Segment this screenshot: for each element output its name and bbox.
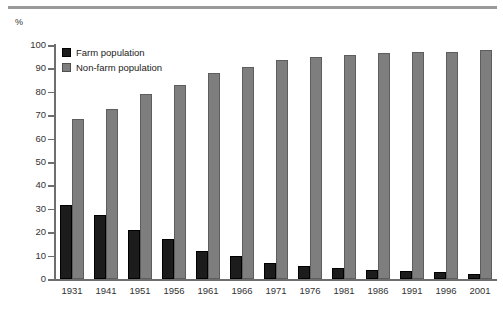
x-axis-tick-label: 1941 <box>89 286 123 302</box>
legend-item-farm: Farm population <box>62 46 162 59</box>
bar-nonfarm <box>378 53 390 279</box>
legend-label-nonfarm: Non-farm population <box>76 63 162 73</box>
bar-nonfarm <box>140 94 152 279</box>
bar-farm <box>264 263 276 279</box>
x-axis-tick-label: 1971 <box>259 286 293 302</box>
plot-area <box>55 45 497 279</box>
bar-nonfarm <box>344 55 356 279</box>
x-axis-tick-label: 1986 <box>361 286 395 302</box>
bar-nonfarm <box>446 52 458 279</box>
y-axis-tick-label: 20 <box>6 227 46 237</box>
bar-nonfarm <box>208 73 220 279</box>
x-axis-tick-label: 2001 <box>463 286 497 302</box>
y-axis-tick-label: 50 <box>6 157 46 167</box>
bar-farm <box>298 266 310 279</box>
bar-group <box>157 45 191 279</box>
bar-farm <box>60 205 72 279</box>
bar-farm <box>230 256 242 279</box>
bar-group <box>361 45 395 279</box>
bar-group <box>327 45 361 279</box>
x-axis-tick-labels: 1931194119511956196119661971197619811986… <box>55 286 497 302</box>
legend-label-farm: Farm population <box>76 48 145 58</box>
bar-farm <box>400 271 412 279</box>
bar-group <box>395 45 429 279</box>
bar-group <box>191 45 225 279</box>
bar-farm <box>162 239 174 279</box>
x-axis-tick-label: 1976 <box>293 286 327 302</box>
legend-swatch-farm-icon <box>62 48 71 57</box>
y-axis-tick-label: 10 <box>6 251 46 261</box>
bar-nonfarm <box>174 85 186 279</box>
x-axis-tick-label: 1951 <box>123 286 157 302</box>
bar-group <box>55 45 89 279</box>
x-axis-tick-label: 1931 <box>55 286 89 302</box>
y-axis-tick-label: 90 <box>6 63 46 73</box>
chart-page: % 1009080706050403020100 193119411951195… <box>0 0 503 318</box>
bar-group <box>429 45 463 279</box>
bar-farm <box>332 268 344 279</box>
bar-farm <box>128 230 140 279</box>
y-axis-tick-label: 30 <box>6 204 46 214</box>
y-axis-tick-labels: 1009080706050403020100 <box>0 0 46 318</box>
bar-group <box>123 45 157 279</box>
bar-groups <box>55 45 497 279</box>
top-divider-rule <box>8 6 497 9</box>
legend-swatch-nonfarm-icon <box>62 63 71 72</box>
bar-farm <box>434 272 446 279</box>
bar-group <box>225 45 259 279</box>
bar-nonfarm <box>106 109 118 279</box>
legend-item-nonfarm: Non-farm population <box>62 61 162 74</box>
x-axis-tick-label: 1981 <box>327 286 361 302</box>
y-axis-tick-label: 80 <box>6 87 46 97</box>
bar-nonfarm <box>310 57 322 279</box>
y-axis-tick-label: 70 <box>6 110 46 120</box>
bar-nonfarm <box>72 119 84 279</box>
x-axis-tick-label: 1991 <box>395 286 429 302</box>
y-axis-tick-label: 60 <box>6 134 46 144</box>
bar-farm <box>94 215 106 279</box>
x-axis-baseline <box>54 279 497 281</box>
chart-legend: Farm population Non-farm population <box>62 46 162 76</box>
bar-group <box>463 45 497 279</box>
bar-group <box>89 45 123 279</box>
x-axis-tick-label: 1956 <box>157 286 191 302</box>
bar-nonfarm <box>242 67 254 279</box>
y-axis-tick-label: 0 <box>6 274 46 284</box>
bar-nonfarm <box>480 50 492 279</box>
bar-nonfarm <box>276 60 288 279</box>
bar-farm <box>366 270 378 279</box>
x-axis-tick-label: 1996 <box>429 286 463 302</box>
bar-group <box>293 45 327 279</box>
x-axis-tick-label: 1966 <box>225 286 259 302</box>
bar-group <box>259 45 293 279</box>
bar-nonfarm <box>412 52 424 279</box>
bar-farm <box>196 251 208 279</box>
x-axis-tick-label: 1961 <box>191 286 225 302</box>
y-axis-tick-label: 40 <box>6 180 46 190</box>
y-axis-tick-label: 100 <box>6 40 46 50</box>
bar-farm <box>468 274 480 279</box>
